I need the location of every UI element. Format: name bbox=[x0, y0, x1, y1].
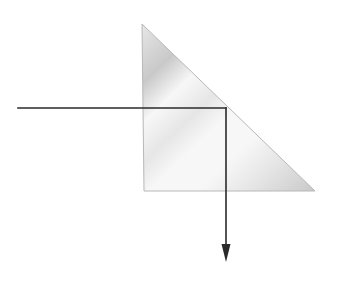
diagram-canvas bbox=[0, 0, 345, 285]
arrowhead-icon bbox=[222, 244, 231, 262]
prism-diagram bbox=[0, 0, 345, 285]
